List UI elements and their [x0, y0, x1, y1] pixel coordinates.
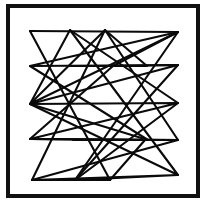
drawing-canvas	[0, 0, 209, 209]
zigzag-figure	[0, 0, 209, 209]
